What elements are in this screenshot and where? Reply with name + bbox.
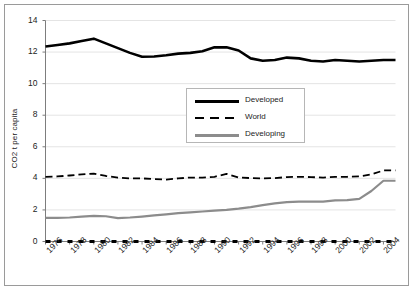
y-tick-label: 2	[12, 204, 38, 214]
legend-swatch-icon	[195, 117, 239, 119]
y-tick-label: 12	[12, 46, 38, 56]
legend-swatch-icon	[195, 134, 239, 137]
y-tick-label: 6	[12, 141, 38, 151]
legend-label: Developed	[245, 95, 283, 104]
legend-label: Developing	[245, 129, 285, 138]
chart-figure: CO2 t per capita DevelopedWorldDevelopin…	[0, 0, 417, 294]
legend-label: World	[245, 112, 266, 121]
series-line-developed	[46, 39, 396, 62]
y-tick-label: 14	[12, 15, 38, 25]
legend-item: Developed	[187, 92, 306, 110]
chart-legend: DevelopedWorldDeveloping	[186, 88, 305, 143]
plot-canvas	[0, 0, 417, 294]
legend-item: World	[187, 109, 306, 127]
series-line-developing	[46, 181, 396, 218]
y-tick-label: 10	[12, 78, 38, 88]
y-tick-label: 4	[12, 172, 38, 182]
legend-item: Developing	[187, 126, 306, 144]
y-tick-label: 8	[12, 109, 38, 119]
y-tick-label: 0	[12, 236, 38, 246]
legend-swatch-icon	[195, 100, 239, 103]
